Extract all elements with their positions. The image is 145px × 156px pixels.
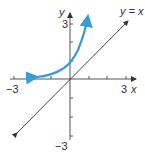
y-max-label: 3 xyxy=(62,18,68,30)
y-min-label: −3 xyxy=(55,140,68,152)
graph-canvas: y 3 −3 3 x −3 y = x xyxy=(0,0,145,156)
y-axis-label: y xyxy=(58,6,66,18)
x-max-label: 3 xyxy=(121,83,127,95)
x-min-label: −3 xyxy=(6,83,19,95)
identity-line xyxy=(17,21,128,133)
identity-line-label: y = x xyxy=(119,5,144,17)
x-axis-label: x xyxy=(130,83,137,95)
